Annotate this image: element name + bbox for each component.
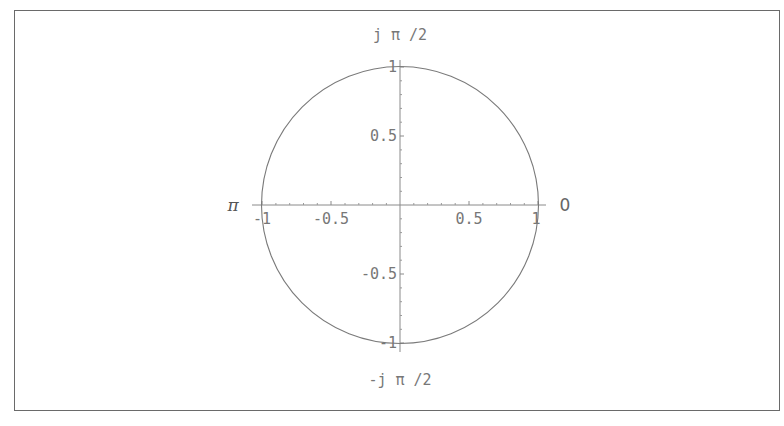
y-tick-label-neg1: -1 xyxy=(379,334,397,352)
y-tick-label-05: 0.5 xyxy=(370,127,397,145)
annotation-bottom: -j π /2 xyxy=(368,371,431,389)
y-tick-label-1: 1 xyxy=(388,58,397,76)
y-tick-label-neg05: -0.5 xyxy=(361,265,397,283)
annotation-left: π xyxy=(226,195,239,215)
x-tick-label-neg05: -0.5 xyxy=(313,210,349,228)
x-tick-label-neg1: -1 xyxy=(253,210,271,228)
annotation-right: 0 xyxy=(560,195,571,215)
x-tick-label-1: 1 xyxy=(531,210,540,228)
x-tick-label-05: 0.5 xyxy=(455,210,482,228)
annotation-top: j π /2 xyxy=(373,26,427,44)
unit-circle-plot: -1 -0.5 0.5 1 1 0.5 -0.5 -1 j π /2 -j π … xyxy=(0,0,784,426)
